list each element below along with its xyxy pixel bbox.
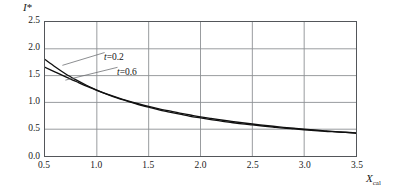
x-tick-label: 2.0	[184, 160, 218, 170]
plot-area	[44, 21, 357, 157]
x-tick-label: 1.0	[79, 160, 113, 170]
curve-label-value: =0.2	[107, 52, 124, 62]
y-tick-label: 0.0	[6, 151, 40, 161]
x-axis-title-text: X	[366, 172, 373, 184]
y-tick-label: 2.0	[6, 42, 40, 52]
curve-label-value: =0.6	[120, 67, 137, 77]
y-axis-title-superscript: *	[27, 1, 33, 13]
x-axis-title-subscript: cal	[373, 179, 381, 187]
curve-label-t-0-6: t=0.6	[117, 67, 137, 77]
leader-line-t-0-6	[65, 67, 117, 80]
x-axis-title: Xcal	[366, 172, 381, 187]
x-tick-label: 3.0	[288, 160, 322, 170]
y-tick-label: 1.5	[6, 69, 40, 79]
leader-line-t-0-2	[62, 53, 104, 66]
y-tick-label: 0.5	[6, 123, 40, 133]
gridlines	[45, 22, 356, 156]
plot-canvas	[45, 22, 356, 156]
y-tick-label: 2.5	[6, 15, 40, 25]
chart-figure: I* Xcal 0.00.51.01.52.02.5 0.51.01.52.02…	[0, 0, 405, 193]
x-tick-label: 2.5	[236, 160, 270, 170]
y-tick-label: 1.0	[6, 96, 40, 106]
x-tick-label: 3.5	[340, 160, 374, 170]
x-tick-label: 0.5	[27, 160, 61, 170]
curve-label-t-0-2: t=0.2	[104, 52, 124, 62]
x-tick-label: 1.5	[131, 160, 165, 170]
y-axis-title: I*	[23, 1, 32, 13]
